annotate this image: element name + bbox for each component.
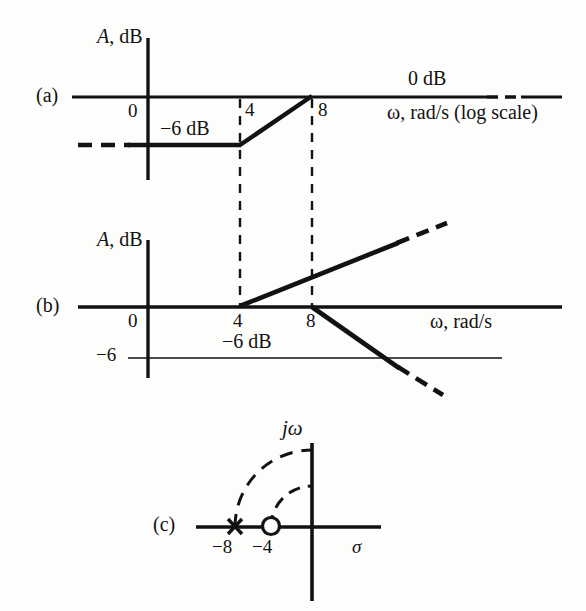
panel-c-tag: (c) <box>153 514 175 534</box>
panel-b-y-tick-minus-six: −6 <box>96 345 116 364</box>
panel-b-rising-segment-dashed-tail <box>397 223 447 243</box>
panel-a-tag: (a) <box>36 85 58 105</box>
panel-c-graphics <box>196 443 381 601</box>
panel-b-tick-4: 4 <box>233 311 243 330</box>
panel-b-tick-8: 8 <box>306 311 316 330</box>
panel-c-zero-circle-marker <box>263 518 280 535</box>
panel-b-tick-0: 0 <box>128 311 138 330</box>
panel-a-minus-six-db-label: −6 dB <box>160 118 210 138</box>
panel-c-real-axis-label: σ <box>352 537 361 556</box>
panel-c-zero-label: −4 <box>252 537 272 556</box>
panel-a-zero-db-label: 0 dB <box>408 68 446 88</box>
panel-b-rising-segment <box>240 243 398 306</box>
figure-canvas: (a) A, dB 0 4 8 −6 dB 0 dB ω, rad/s (log… <box>0 0 586 611</box>
panel-b-x-axis-label: ω, rad/s <box>430 311 492 331</box>
panel-a-tick-4: 4 <box>245 100 255 119</box>
panel-a-tick-8: 8 <box>318 100 328 119</box>
panel-a-graphics <box>72 38 562 306</box>
panel-b-graphics <box>78 223 562 395</box>
panel-c-pole-label: −8 <box>212 537 232 556</box>
panel-a-x-axis-label: ω, rad/s (log scale) <box>387 102 538 122</box>
panel-b-minus-six-db-label: −6 dB <box>222 331 272 351</box>
panel-b-tag: (b) <box>36 295 59 315</box>
panel-a-tick-0: 0 <box>128 101 138 120</box>
panel-b-y-axis-label: A, dB <box>97 229 143 249</box>
panel-c-imaginary-axis-label: jω <box>282 418 303 439</box>
panel-a-y-axis-label: A, dB <box>97 26 143 46</box>
panel-b-falling-segment-dashed-tail <box>398 367 443 395</box>
figure-vector-layer <box>0 0 586 611</box>
